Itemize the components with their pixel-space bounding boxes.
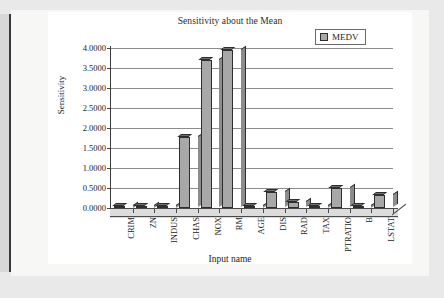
y-tick-label: 3.0000: [62, 83, 106, 93]
x-axis-title: Input name: [48, 254, 412, 264]
bar-column: [285, 48, 307, 209]
bar-rm: [222, 50, 233, 208]
x-tick-label-zn: ZN: [148, 217, 158, 277]
x-tick-label-b: B: [364, 217, 374, 277]
y-tick-label: 3.5000: [62, 63, 106, 73]
x-tick-mark: [219, 209, 220, 213]
bar-ptratio: [331, 188, 342, 208]
bar-column: [306, 48, 328, 209]
y-tick-label: 0.5000: [62, 183, 106, 193]
bar-column: [198, 48, 220, 209]
x-tick-label-nox: NOX: [213, 217, 223, 277]
bar-column: [219, 48, 241, 209]
page-gutter: [0, 14, 9, 272]
y-tick-label: 0.0000: [62, 203, 106, 213]
bar-series-medv: [111, 48, 393, 209]
x-tick-mark: [306, 209, 307, 213]
bar-column: [176, 48, 198, 209]
y-axis-ticks: 0.00000.50001.00001.50002.00002.50003.00…: [60, 48, 106, 208]
x-tick-label-age: AGE: [256, 217, 266, 277]
bar-column: [371, 48, 393, 209]
y-tick-label: 1.5000: [62, 143, 106, 153]
x-tick-mark: [133, 209, 134, 213]
bar-column: [350, 48, 372, 209]
chart-title: Sensitivity about the Mean: [48, 16, 412, 26]
bar-column: [241, 48, 263, 209]
x-tick-label-dis: DIS: [278, 217, 288, 277]
y-tick-label: 4.0000: [62, 43, 106, 53]
x-tick-label-ptratio: PTRATIO: [343, 217, 353, 277]
x-tick-mark: [198, 209, 199, 213]
bar-nox: [201, 60, 212, 208]
x-tick-mark: [263, 209, 264, 213]
x-tick-label-tax: TAX: [321, 217, 331, 277]
x-tick-label-indus: INDUS: [169, 217, 179, 277]
y-tick-label: 2.0000: [62, 123, 106, 133]
x-tick-mark: [154, 209, 155, 213]
x-tick-label-lstat: LSTAT: [386, 217, 396, 277]
bar-column: [133, 48, 155, 209]
bar-column: [154, 48, 176, 209]
bar-chas: [179, 137, 190, 208]
bar-column: [328, 48, 350, 209]
x-tick-mark: [285, 209, 286, 213]
bar-dis: [266, 192, 277, 208]
x-tick-label-crim: CRIM: [126, 217, 136, 277]
y-tick-label: 1.0000: [62, 163, 106, 173]
legend-swatch-icon: [320, 33, 328, 41]
chart-figure: Sensitivity about the Mean Sensitivity 0…: [48, 12, 412, 264]
bar-column: [111, 48, 133, 209]
chart-legend: MEDV: [315, 29, 366, 45]
bar-column: [263, 48, 285, 209]
scanned-page: Sensitivity about the Mean Sensitivity 0…: [0, 0, 444, 298]
x-tick-mark: [241, 209, 242, 213]
x-tick-label-chas: CHAS: [191, 217, 201, 277]
bar-rad: [288, 202, 299, 208]
x-tick-label-rad: RAD: [299, 217, 309, 277]
legend-label-medv: MEDV: [332, 32, 359, 42]
x-tick-mark: [393, 209, 394, 213]
x-tick-mark: [371, 209, 372, 213]
x-tick-mark: [350, 209, 351, 213]
bar-lstat: [374, 195, 385, 208]
x-tick-mark: [328, 209, 329, 213]
x-tick-label-rm: RM: [234, 217, 244, 277]
x-tick-mark: [176, 209, 177, 213]
y-tick-label: 2.5000: [62, 103, 106, 113]
